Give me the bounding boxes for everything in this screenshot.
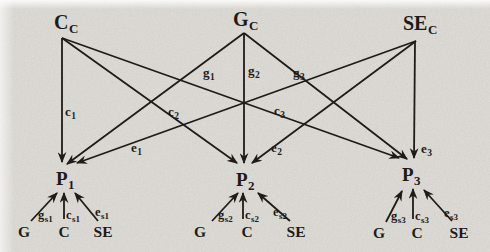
- scanned-figure: c1c2c3g1g2g3e1e2e3 gs1Gcs1Ces1SEgs2Gcs2C…: [0, 0, 490, 252]
- scan-grain-texture: [0, 0, 490, 252]
- path-diagram: c1c2c3g1g2g3e1e2e3 gs1Gcs1Ces1SEgs2Gcs2C…: [0, 0, 490, 252]
